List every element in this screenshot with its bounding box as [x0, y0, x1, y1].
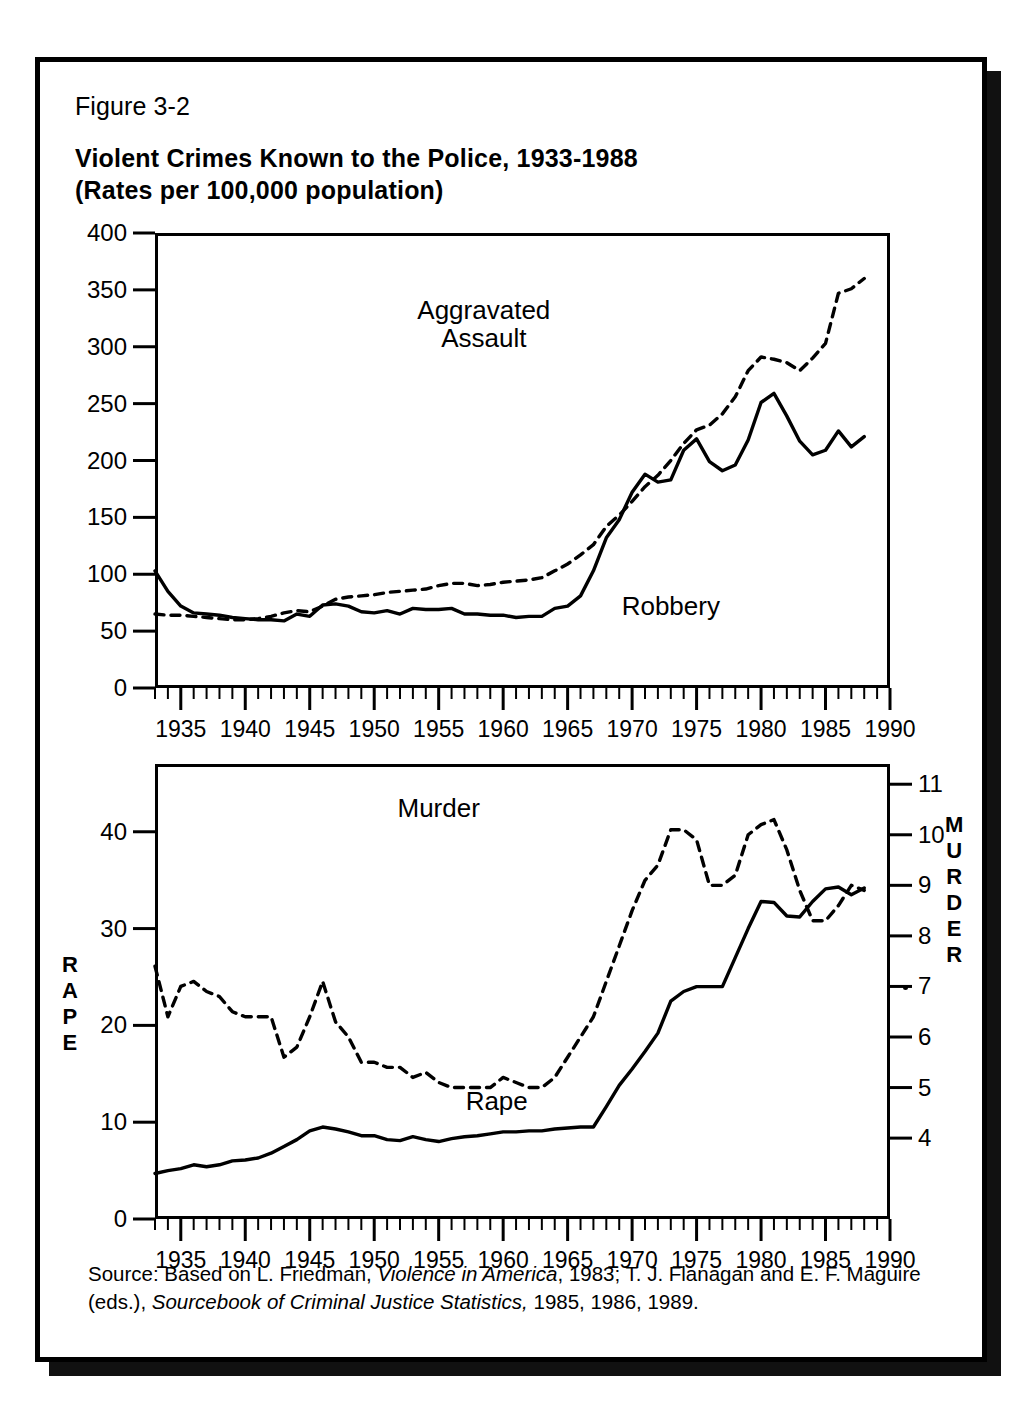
figure-card: Figure 3-2 Violent Crimes Known to the P…	[35, 57, 987, 1362]
series-annotation-rape: Rape	[466, 1085, 528, 1116]
source-italic-title-2: Sourcebook of Criminal Justice Statistic…	[152, 1290, 528, 1313]
series-line-murder	[155, 820, 864, 1088]
series-annotation-robbery: Robbery	[622, 591, 720, 622]
ytick-label-right: 7	[918, 972, 931, 1000]
ytick-label-left: 300	[87, 333, 127, 361]
ytick-label-left: 10	[100, 1108, 127, 1136]
source-suffix: 1985, 1986, 1989.	[528, 1290, 699, 1313]
ytick-label-right: 8	[918, 922, 931, 950]
axis-title-murder: MURDER	[945, 812, 963, 968]
ytick-label-left: 400	[87, 219, 127, 247]
series-annotation-murder: Murder	[397, 792, 479, 823]
ytick-label-left: 20	[100, 1011, 127, 1039]
ytick-label-right: 9	[918, 871, 931, 899]
ytick-label-left: 100	[87, 560, 127, 588]
scan-artifact-apostrophe: ’	[981, 947, 989, 979]
ytick-label-left: 0	[114, 1205, 127, 1233]
ytick-label-right: 4	[918, 1124, 931, 1152]
ytick-label-right: 10	[918, 821, 945, 849]
ytick-label-right: 6	[918, 1023, 931, 1051]
ytick-label-left: 200	[87, 447, 127, 475]
chart-lower-rape-murder: 0102030404567891011193519401945195019551…	[40, 702, 992, 1262]
ytick-label-left: 250	[87, 390, 127, 418]
scan-artifact-dot	[903, 985, 908, 990]
ytick-label-left: 0	[114, 674, 127, 702]
series-line-rape	[155, 887, 864, 1174]
plot-canvas-upper	[40, 62, 992, 762]
source-italic-title-1: Violence in America	[377, 1262, 557, 1285]
chart-upper-violent-crimes: 0501001502002503003504001935194019451950…	[40, 62, 992, 702]
source-prefix: Source: Based on L. Friedman,	[88, 1262, 377, 1285]
ytick-label-right: 5	[918, 1074, 931, 1102]
ytick-label-left: 40	[100, 818, 127, 846]
ytick-label-left: 30	[100, 915, 127, 943]
series-annotation-assault: Assault	[441, 322, 526, 353]
ytick-label-left: 350	[87, 276, 127, 304]
axis-title-rape: RAPE	[62, 952, 78, 1056]
source-note: Source: Based on L. Friedman, Violence i…	[88, 1260, 958, 1316]
ytick-label-right: 11	[918, 770, 943, 798]
ytick-label-left: 150	[87, 503, 127, 531]
series-line-robbery	[155, 393, 864, 621]
ytick-label-left: 50	[100, 617, 127, 645]
